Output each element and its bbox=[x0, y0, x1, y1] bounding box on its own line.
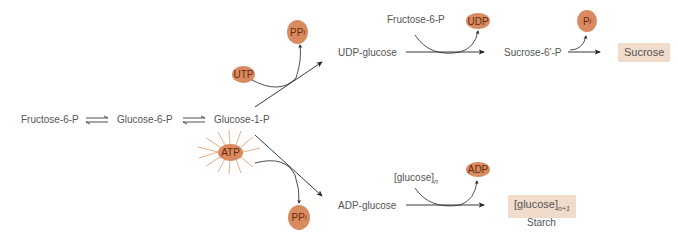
utp-to-ppi-curve bbox=[252, 45, 301, 87]
atp-molecule: ATP bbox=[218, 144, 243, 161]
fructose-6-p-cosubstrate-label: Fructose-6-P bbox=[387, 14, 445, 26]
equilibrium-arrow-1 bbox=[86, 116, 108, 124]
ppi-molecule-upper: PPi bbox=[287, 20, 308, 44]
sucrose-6p-label: Sucrose-6′-P bbox=[504, 47, 561, 59]
starch-label: Starch bbox=[527, 217, 556, 229]
glucan-n-label: [glucose]n bbox=[394, 172, 438, 188]
pi-molecule: Pi bbox=[577, 10, 597, 32]
adp-molecule: ADP bbox=[466, 162, 490, 177]
arrow-to-udp-glucose bbox=[255, 62, 322, 107]
atp-to-ppi-curve bbox=[255, 161, 299, 203]
udp-molecule: UDP bbox=[466, 13, 490, 29]
pi-release-curve bbox=[570, 36, 586, 50]
sucrose-product-box: Sucrose bbox=[618, 43, 670, 62]
fructose-6-p-label: Fructose-6-P bbox=[21, 114, 79, 126]
glucose-6-p-label: Glucose-6-P bbox=[117, 114, 173, 126]
ppi-molecule-lower: PPi bbox=[288, 205, 310, 230]
starch-product-box: [glucose]n+1 bbox=[508, 195, 576, 218]
glucose-1-p-label: Glucose-1-P bbox=[214, 114, 270, 126]
arrow-to-adp-glucose bbox=[255, 135, 322, 196]
utp-molecule: UTP bbox=[232, 66, 255, 83]
adp-glucose-label: ADP-glucose bbox=[338, 200, 396, 212]
udp-glucose-label: UDP-glucose bbox=[338, 47, 397, 59]
fructose-to-udp-curve bbox=[415, 31, 478, 53]
equilibrium-arrow-2 bbox=[183, 116, 205, 124]
